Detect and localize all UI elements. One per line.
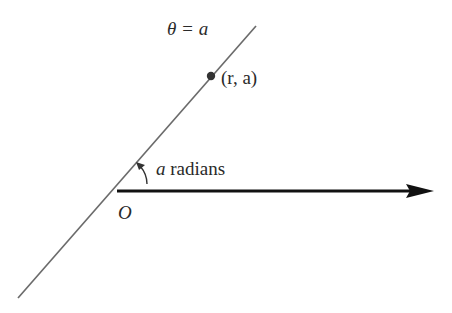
polar-diagram xyxy=(0,0,452,313)
ray-equation-label: θ = a xyxy=(167,19,208,38)
angle-arc-icon xyxy=(140,166,147,184)
point-r-a xyxy=(207,72,215,80)
polar-axis-arrowhead-icon xyxy=(406,184,434,198)
angle-label: a radians xyxy=(156,159,225,178)
point-label: (r, a) xyxy=(221,68,257,87)
angle-arc-arrowhead-icon xyxy=(136,162,145,170)
origin-label: O xyxy=(118,203,132,222)
